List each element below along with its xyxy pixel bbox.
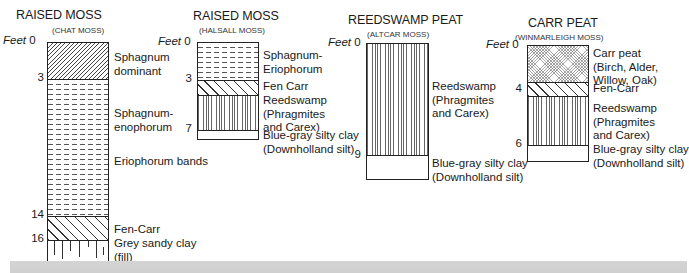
layer-label: Grey sandy clay (fill) [114,237,196,264]
layer-blue-gray-silty-clay [198,130,258,139]
layer-blue-gray-silty-clay [528,145,588,161]
layer-label: Sphagnum dominant [114,51,170,78]
layer-label: Reedswamp (Phragmites and Carex) [593,102,657,143]
depth-axis-label: Feet 0 [486,38,519,50]
column-title: REEDSWAMP PEAT [348,13,463,27]
layer-label: Fen Carr [263,80,308,94]
depth-tick: 4 [502,82,522,94]
stratigraphic-column [197,42,259,140]
layer-sphagnum-dominant [48,43,108,79]
depth-axis-label: Feet 0 [158,35,191,47]
depth-tick: 3 [24,71,44,83]
fill-mark [79,241,80,257]
layer-label: Blue-gray silty clay (Downholland silt) [432,157,528,184]
fill-mark [54,241,55,255]
depth-axis-label: Feet 0 [328,36,361,48]
depth-tick: 9 [341,148,361,160]
depth-tick: 0 [29,34,35,46]
page-bottom-bar [10,261,687,273]
dash-pattern [48,80,108,216]
layer-label: Fen-Carr [114,223,160,237]
column-subtitle: (HALSALL MOSS) [199,26,265,35]
layer-label: Eriophorum bands [114,155,208,169]
depth-tick: 16 [24,232,44,244]
depth-unit-label: Feet [158,35,181,47]
column-title: RAISED MOSS [193,9,279,23]
depth-tick: 0 [354,36,360,48]
layer-label: Fen-Carr [593,82,639,96]
depth-tick: 0 [512,38,518,50]
layer-reedswamp [528,96,588,145]
fill-mark [96,241,97,258]
layer-label: Reedswamp (Phragmites and Carex) [432,80,496,121]
fill-mark [62,241,63,259]
layer-reedswamp [198,95,258,130]
depth-unit-label: Feet [3,34,26,46]
column-title: RAISED MOSS [16,8,102,22]
layer-fen-carr [48,216,108,240]
layer-fen-carr [528,82,588,96]
depth-unit-label: Feet [328,36,351,48]
depth-tick: 6 [502,137,522,149]
layer-label: Sphagnum- Eriophorum [263,49,322,76]
depth-tick: 3 [172,72,192,84]
layer-sphagnum-eriophorum [198,43,258,80]
depth-tick: 0 [184,35,190,47]
fill-mark [103,247,104,255]
layer-label: Sphagnum- enophorum [114,107,173,134]
stratigraphic-column [527,45,589,162]
layer-blue-gray-silty-clay [367,155,428,179]
fill-mark [70,241,71,251]
fill-mark [88,241,89,247]
column-subtitle: (WINMARLEIGH MOSS) [515,33,603,42]
column-subtitle: (ALTCAR MOSS) [367,30,429,39]
depth-unit-label: Feet [486,38,509,50]
depth-axis-label: Feet 0 [3,34,36,46]
layer-sphagnum-enophorum [48,79,108,216]
layer-label: Blue-gray silty clay (Downholland silt) [593,143,689,170]
column-title: CARR PEAT [528,16,598,30]
dash-pattern [198,43,258,80]
depth-tick: 7 [172,122,192,134]
stratigraphic-column [47,42,109,266]
layer-reedswamp [367,44,428,155]
column-subtitle: (CHAT MOSS) [52,26,104,35]
depth-tick: 14 [24,208,44,220]
layer-carr-peat [528,46,588,82]
stratigraphic-column [366,43,429,180]
layer-fen-carr [198,80,258,95]
